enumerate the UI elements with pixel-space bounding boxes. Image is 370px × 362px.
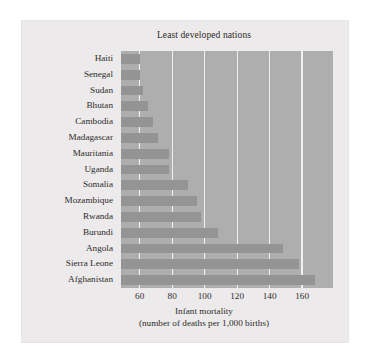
category-label-burundi: Burundi: [83, 228, 113, 237]
bar-row: [121, 196, 333, 206]
bar-row: [121, 70, 333, 80]
bar-sierra-leone: [121, 259, 299, 269]
category-label-sierra-leone: Sierra Leone: [66, 259, 113, 268]
bar-senegal: [121, 70, 140, 80]
x-axis-tick-labels: 6080100120140160: [121, 291, 333, 305]
bar-madagascar: [121, 133, 158, 143]
bar-row: [121, 180, 333, 190]
bar-row: [121, 165, 333, 175]
bar-row: [121, 54, 333, 64]
chart-title: Least developed nations: [22, 30, 348, 40]
bar-row: [121, 133, 333, 143]
bar-afghanistan: [121, 275, 315, 285]
category-label-cambodia: Cambodia: [75, 117, 113, 126]
chart-card: Least developed nations HaitiSenegalSuda…: [22, 21, 348, 342]
x-tick-label-140: 140: [263, 291, 277, 301]
bar-row: [121, 244, 333, 254]
bar-row: [121, 86, 333, 96]
x-tick-label-160: 160: [295, 291, 309, 301]
bar-row: [121, 259, 333, 269]
category-label-mozambique: Mozambique: [65, 196, 113, 205]
bar-mozambique: [121, 196, 197, 206]
bar-burundi: [121, 228, 218, 238]
category-label-mauritania: Mauritania: [73, 149, 113, 158]
bar-angola: [121, 244, 283, 254]
category-label-uganda: Uganda: [84, 165, 113, 174]
bar-mauritania: [121, 149, 169, 159]
category-label-madagascar: Madagascar: [69, 133, 113, 142]
x-tick-label-100: 100: [198, 291, 212, 301]
category-label-haiti: Haiti: [95, 54, 113, 63]
bar-row: [121, 275, 333, 285]
bar-sudan: [121, 86, 143, 96]
x-tick-label-120: 120: [230, 291, 244, 301]
category-label-bhutan: Bhutan: [86, 101, 113, 110]
bar-haiti: [121, 54, 140, 64]
category-label-afghanistan: Afghanistan: [68, 275, 113, 284]
category-axis-labels: HaitiSenegalSudanBhutanCambodiaMadagasca…: [22, 51, 118, 288]
x-axis-title-line2: (number of deaths per 1,000 births): [60, 318, 348, 330]
category-label-sudan: Sudan: [90, 86, 113, 95]
x-axis-title-line1: Infant mortality: [60, 306, 348, 318]
category-label-rwanda: Rwanda: [83, 212, 113, 221]
category-label-somalia: Somalia: [83, 180, 113, 189]
bar-rwanda: [121, 212, 201, 222]
x-tick-label-60: 60: [135, 291, 144, 301]
bar-cambodia: [121, 117, 153, 127]
bar-row: [121, 149, 333, 159]
bar-uganda: [121, 165, 169, 175]
bar-row: [121, 101, 333, 111]
category-label-senegal: Senegal: [84, 70, 113, 79]
plot-area: [121, 51, 333, 288]
category-label-angola: Angola: [86, 244, 113, 253]
x-tick-label-80: 80: [168, 291, 177, 301]
bar-bhutan: [121, 101, 148, 111]
bar-row: [121, 117, 333, 127]
bar-row: [121, 212, 333, 222]
bar-somalia: [121, 180, 188, 190]
x-axis-title: Infant mortality (number of deaths per 1…: [22, 306, 348, 329]
bar-row: [121, 228, 333, 238]
chart-figure: Least developed nations HaitiSenegalSuda…: [0, 0, 370, 362]
